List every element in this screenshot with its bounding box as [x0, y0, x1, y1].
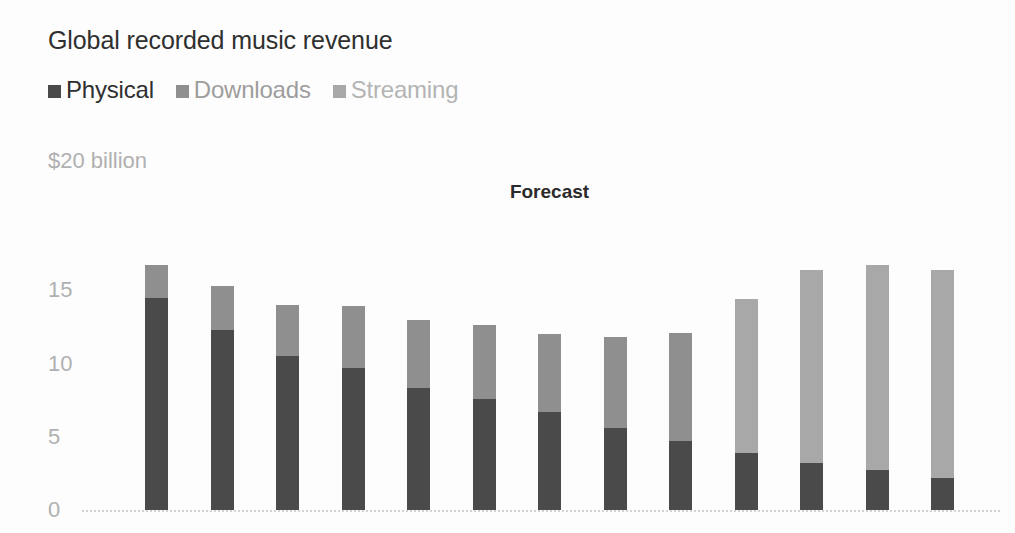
bar-column[interactable] — [866, 265, 889, 510]
bar-segment-physical — [473, 399, 496, 510]
forecast-annotation: Forecast — [510, 181, 589, 203]
bar-segment-physical — [211, 330, 234, 510]
bar-segment-downloads — [211, 286, 234, 330]
bar-column[interactable] — [342, 306, 365, 510]
bar-column[interactable] — [800, 270, 823, 510]
bar-segment-downloads — [276, 305, 299, 356]
bar-segment-downloads — [604, 337, 627, 428]
bar-column[interactable] — [276, 305, 299, 510]
bar-column[interactable] — [145, 265, 168, 510]
plot-area — [0, 0, 1015, 533]
bar-column[interactable] — [735, 299, 758, 510]
bar-column[interactable] — [669, 333, 692, 510]
bar-segment-physical — [735, 453, 758, 510]
chart-figure: Global recorded music revenue Physical D… — [0, 0, 1015, 533]
bar-segment-physical — [604, 428, 627, 510]
bar-segment-physical — [800, 463, 823, 510]
bar-column[interactable] — [538, 334, 561, 510]
bar-segment-streaming — [735, 299, 758, 453]
bar-segment-downloads — [669, 333, 692, 441]
bar-segment-downloads — [145, 265, 168, 297]
bar-segment-downloads — [407, 320, 430, 389]
bar-segment-physical — [276, 356, 299, 510]
bar-segment-physical — [669, 441, 692, 510]
bar-segment-physical — [407, 388, 430, 510]
bar-segment-streaming — [800, 270, 823, 463]
bar-segment-physical — [866, 470, 889, 510]
bar-column[interactable] — [211, 286, 234, 510]
bar-segment-downloads — [473, 325, 496, 398]
bar-segment-physical — [145, 298, 168, 510]
bar-column[interactable] — [473, 325, 496, 510]
bar-column[interactable] — [931, 270, 954, 510]
bar-segment-physical — [538, 412, 561, 510]
bar-column[interactable] — [604, 337, 627, 510]
bar-segment-streaming — [866, 265, 889, 470]
bar-segment-downloads — [538, 334, 561, 412]
bar-segment-downloads — [342, 306, 365, 368]
bar-segment-physical — [342, 368, 365, 510]
bar-segment-streaming — [931, 270, 954, 478]
bar-segment-physical — [931, 478, 954, 510]
bar-column[interactable] — [407, 320, 430, 510]
